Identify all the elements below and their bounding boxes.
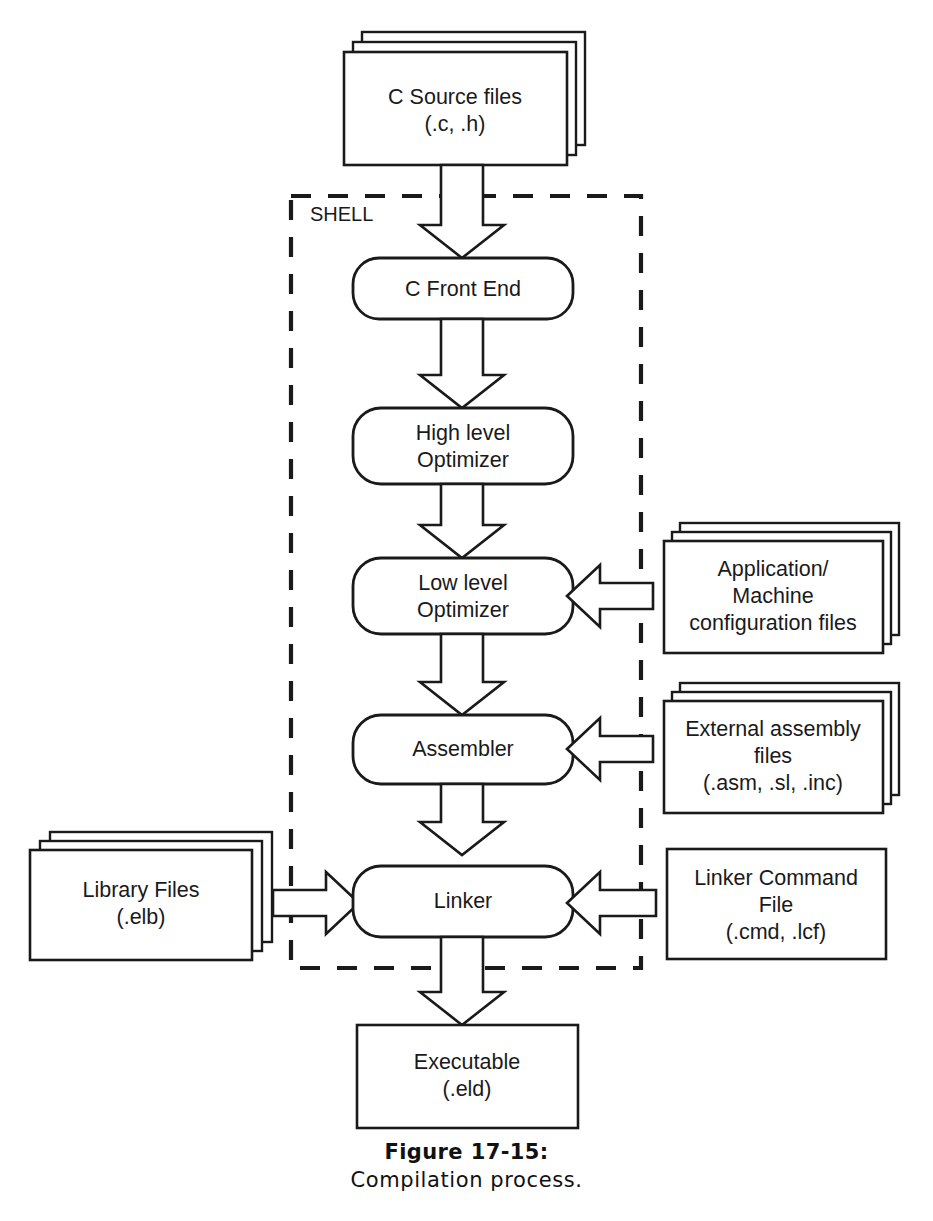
low-level-optimizer-line1: Low level [418,571,508,595]
arrow-highopt-to-lowopt [420,484,504,558]
shell-label: SHELL [310,203,373,225]
config-files-line2: Machine [732,584,813,608]
node-low-level-optimizer: Low level Optimizer [353,558,573,634]
compilation-process-diagram: SHELL C Source files (.c, .h) C Front En… [0,0,933,1221]
arrow-extasm-to-assembler [567,718,653,780]
linker-command-file-line1: Linker Command [694,866,858,890]
config-files-line3: configuration files [689,611,856,635]
assembler-label: Assembler [412,737,514,761]
external-assembly-line2: files [754,744,792,768]
linker-command-file-line2: File [759,893,794,917]
executable-line2: (.eld) [443,1077,492,1101]
config-files-line1: Application/ [717,557,828,581]
node-external-assembly: External assembly files (.asm, .sl, .inc… [664,683,899,813]
arrow-config-to-lowopt [567,565,653,627]
node-executable: Executable (.eld) [357,1025,578,1128]
figure-caption: Figure 17-15: Compilation process. [0,1138,933,1196]
figure-caption-title: Figure 17-15: [0,1138,933,1166]
library-files-line2: (.elb) [117,905,166,929]
linker-label: Linker [434,889,493,913]
figure-canvas: SHELL C Source files (.c, .h) C Front En… [0,0,933,1221]
low-level-optimizer-line2: Optimizer [417,598,509,622]
node-linker: Linker [353,866,573,937]
arrow-lowopt-to-assembler [420,634,504,715]
arrow-linker-to-executable [420,937,504,1025]
low-level-optimizer-box [353,558,573,634]
high-level-optimizer-line2: Optimizer [417,448,509,472]
arrow-frontend-to-highopt [420,319,504,408]
source-files-line1: C Source files [388,85,522,109]
high-level-optimizer-box [353,408,573,484]
node-linker-command-file: Linker Command File (.cmd, .lcf) [667,849,886,959]
source-files-line2: (.c, .h) [425,112,486,136]
node-source-files: C Source files (.c, .h) [344,32,585,165]
node-assembler: Assembler [353,715,573,784]
node-config-files: Application/ Machine configuration files [664,523,899,653]
linker-command-file-line3: (.cmd, .lcf) [726,920,826,944]
arrow-source-to-frontend [420,165,504,258]
arrow-library-to-linker [273,872,359,934]
node-library-files: Library Files (.elb) [30,832,272,960]
library-files-line1: Library Files [82,878,199,902]
arrow-assembler-to-linker [420,784,504,855]
high-level-optimizer-line1: High level [416,421,510,445]
external-assembly-line1: External assembly [685,717,861,741]
figure-caption-subtitle: Compilation process. [0,1166,933,1195]
node-c-front-end: C Front End [353,258,573,319]
external-assembly-line3: (.asm, .sl, .inc) [703,771,843,795]
executable-line1: Executable [414,1050,520,1074]
c-front-end-label: C Front End [405,277,521,301]
node-high-level-optimizer: High level Optimizer [353,408,573,484]
